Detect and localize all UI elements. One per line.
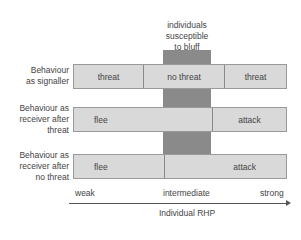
segment-threat-strong: threat <box>224 65 286 88</box>
segment-flee: flee <box>74 108 212 131</box>
row-receiver-after-threat: flee attack <box>73 107 287 132</box>
row-signaller: threat no threat threat <box>73 64 287 89</box>
segment-flee: flee <box>74 155 164 178</box>
segment-no-threat: no threat <box>143 65 224 88</box>
row-label-receiver-after-threat: Behaviour as receiver after threat <box>19 103 69 136</box>
row-receiver-after-no-threat: flee attack <box>73 154 287 179</box>
segment-attack: attack <box>212 108 286 131</box>
row-label-signaller: Behaviour as signaller <box>26 65 69 87</box>
axis-tick-strong: strong <box>260 188 284 198</box>
bluff-zone-label: individuals susceptible to bluff <box>150 20 224 53</box>
axis-line <box>69 203 287 204</box>
segment-attack: attack <box>164 155 286 178</box>
segment-threat-weak: threat <box>74 65 143 88</box>
axis-tick-intermediate: intermediate <box>163 188 210 198</box>
arrow-right-icon <box>286 200 291 206</box>
axis-tick-weak: weak <box>75 188 95 198</box>
axis-title: Individual RHP <box>150 208 224 218</box>
row-label-receiver-after-no-threat: Behaviour as receiver after no threat <box>19 150 69 183</box>
